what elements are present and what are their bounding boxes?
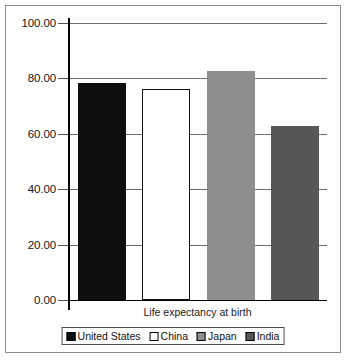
- y-axis-tick: [58, 134, 68, 135]
- x-axis-title: Life expectancy at birth: [68, 306, 327, 318]
- plot-area: 0.0020.0040.0060.0080.00100.00: [68, 23, 327, 300]
- y-axis-tick-label: 100.00: [21, 17, 56, 29]
- y-axis-tick-label: 80.00: [28, 72, 56, 84]
- bar-series-group: [70, 23, 327, 300]
- legend-swatch-icon: [246, 332, 255, 341]
- bar-japan: [207, 71, 255, 300]
- legend-entry: United States: [67, 330, 141, 342]
- legend-swatch-icon: [150, 332, 159, 341]
- y-axis-tick-label: 0.00: [34, 294, 56, 306]
- y-axis-tick-label: 40.00: [28, 183, 56, 195]
- y-axis-tick: [58, 300, 68, 301]
- legend-label: Japan: [208, 330, 237, 342]
- chart-figure: 0.0020.0040.0060.0080.00100.00 Life expe…: [5, 5, 341, 353]
- legend-label: India: [257, 330, 280, 342]
- y-axis-tick-label: 60.00: [28, 128, 56, 140]
- legend-entry: India: [246, 330, 280, 342]
- y-axis-tick-label: 20.00: [28, 239, 56, 251]
- legend-entry: Japan: [197, 330, 237, 342]
- y-axis-tick: [58, 23, 68, 24]
- bar-china: [142, 89, 190, 300]
- bar-united-states: [78, 83, 126, 300]
- y-axis-tick: [58, 189, 68, 190]
- chart-legend: United StatesChinaJapanIndia: [62, 327, 285, 345]
- legend-entry: China: [150, 330, 188, 342]
- legend-swatch-icon: [67, 332, 76, 341]
- gridline: [68, 300, 327, 301]
- y-axis-tick: [58, 78, 68, 79]
- legend-swatch-icon: [197, 332, 206, 341]
- bar-india: [271, 126, 319, 301]
- legend-label: United States: [78, 330, 141, 342]
- y-axis-tick: [58, 245, 68, 246]
- legend-label: China: [161, 330, 188, 342]
